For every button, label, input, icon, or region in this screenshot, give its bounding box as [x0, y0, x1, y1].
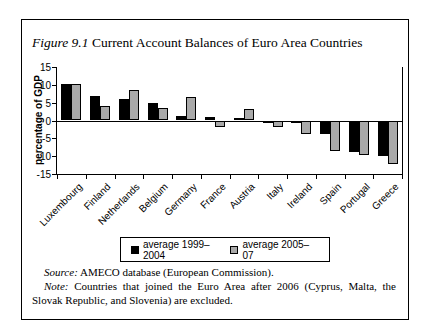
x-axis-label-italy: Italy	[265, 181, 286, 202]
x-axis-label-spain: Spain	[317, 181, 343, 207]
bar-netherlands-series2	[129, 90, 139, 120]
y-axis-tick	[52, 138, 57, 139]
bar-spain-series2	[330, 121, 340, 151]
bar-ireland-series1	[291, 121, 301, 123]
legend-item-1999-2004: average 1999–2004	[131, 239, 230, 261]
legend-item-2005-07: average 2005–07	[230, 239, 319, 261]
bar-spain-series1	[320, 121, 330, 135]
y-axis-tick-label: 15	[25, 62, 51, 73]
figure-box: Figure 9.1 Current Account Balances of E…	[21, 19, 409, 320]
bar-italy-series1	[263, 121, 273, 123]
gray-swatch-icon	[230, 246, 238, 254]
x-axis-tick	[402, 175, 403, 179]
bar-portugal-series1	[349, 121, 359, 152]
y-axis-tick-label: 10	[25, 79, 51, 90]
bar-finland-series2	[100, 106, 110, 120]
bar-netherlands-series1	[119, 99, 129, 120]
x-axis-label-luxembourg: Luxembourg	[37, 181, 84, 228]
x-axis-label-france: France	[198, 181, 228, 211]
bar-luxembourg-series2	[71, 84, 81, 120]
black-swatch-icon	[131, 246, 139, 254]
source-text: AMECO database (European Commission).	[80, 266, 274, 278]
bar-germany-series1	[176, 116, 186, 120]
figure-title: Figure 9.1 Current Account Balances of E…	[32, 35, 402, 51]
bar-greece-series1	[378, 121, 388, 157]
bar-greece-series2	[388, 121, 398, 165]
legend: average 1999–2004 average 2005–07	[120, 237, 330, 262]
bar-portugal-series2	[359, 121, 369, 156]
bar-germany-series2	[186, 97, 196, 120]
plot-area: percentage of GDP 151050-5-10-15	[56, 67, 403, 175]
y-axis-tick	[52, 67, 57, 68]
x-axis-labels: LuxembourgFinlandNetherlandsBelgiumGerma…	[56, 174, 401, 236]
x-axis-label-ireland: Ireland	[285, 181, 314, 210]
y-axis-tick-label: 5	[25, 97, 51, 108]
bar-austria-series1	[234, 118, 244, 121]
y-axis-tick-label: -5	[25, 133, 51, 144]
source-label: Source:	[44, 266, 78, 278]
bar-austria-series2	[244, 109, 254, 121]
x-axis-label-portugal: Portugal	[338, 181, 372, 215]
figure-number: Figure 9.1	[32, 35, 89, 50]
figure-footer: Source: AMECO database (European Commiss…	[32, 265, 396, 307]
x-axis-label-austria: Austria	[227, 181, 257, 211]
bar-belgium-series1	[148, 103, 158, 121]
legend-label: average 2005–07	[242, 239, 319, 261]
source-line: Source: AMECO database (European Commiss…	[32, 265, 396, 279]
x-axis-label-greece: Greece	[369, 181, 400, 212]
y-axis-tick	[52, 103, 57, 104]
y-axis-tick-label: -10	[25, 151, 51, 162]
figure-title-text: Current Account Balances of Euro Area Co…	[89, 35, 363, 50]
bar-belgium-series2	[158, 108, 168, 121]
note-text: Countries that joined the Euro Area afte…	[32, 280, 396, 306]
y-axis-tick	[52, 156, 57, 157]
bar-italy-series2	[273, 121, 283, 127]
y-axis-tick	[52, 85, 57, 86]
y-axis-tick-label: 0	[25, 115, 51, 126]
note-line: Note: Countries that joined the Euro Are…	[32, 279, 396, 307]
bar-finland-series1	[90, 96, 100, 121]
bar-france-series1	[205, 117, 215, 120]
bar-france-series2	[215, 121, 225, 128]
note-label: Note:	[44, 280, 68, 292]
legend-label: average 1999–2004	[143, 239, 231, 261]
bar-luxembourg-series1	[61, 84, 71, 121]
bar-ireland-series2	[301, 121, 311, 135]
y-axis-tick-label: -15	[25, 169, 51, 180]
